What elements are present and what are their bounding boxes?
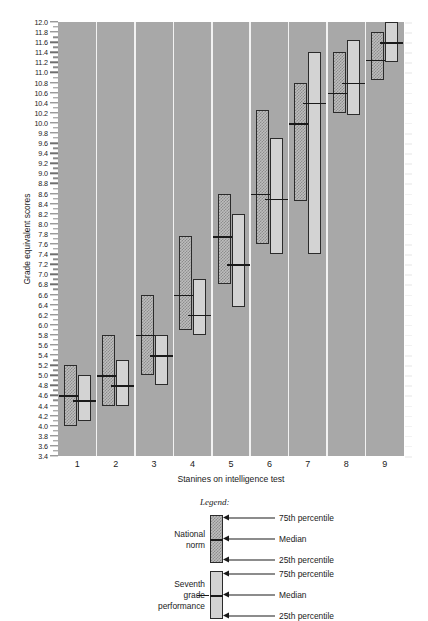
y-axis-tick-mark	[50, 314, 58, 315]
y-axis-tick-label: 4.2	[38, 412, 48, 419]
column-separator	[134, 22, 136, 456]
seventh-grade-box	[232, 214, 245, 307]
y-axis-tick-mark	[50, 375, 58, 376]
y-axis-tick-mark	[50, 435, 58, 436]
y-axis-tick-label: 3.6	[38, 442, 48, 449]
right-edge-tick	[405, 295, 412, 297]
arrow-shaft	[229, 539, 275, 540]
seventh-grade-box	[347, 40, 360, 116]
y-axis-tick-mark	[50, 62, 58, 63]
plot-area	[58, 22, 404, 456]
legend-callout-arrow	[223, 570, 275, 579]
arrow-shaft	[229, 595, 275, 596]
y-axis-tick-label: 9.6	[38, 140, 48, 147]
y-axis-tick-label: 11.4	[35, 49, 48, 56]
right-edge-tick	[405, 426, 412, 428]
x-axis-tick-label: 7	[305, 459, 310, 469]
y-axis-tick-mark	[50, 193, 58, 194]
legend-callout-arrow	[223, 514, 275, 523]
y-axis-tick-label: 5.6	[38, 341, 48, 348]
y-axis-tick-mark	[50, 445, 58, 446]
y-axis-tick-mark	[50, 253, 58, 254]
right-edge-tick	[405, 113, 412, 115]
right-edge-tick	[405, 32, 412, 34]
right-edge-tick	[405, 274, 412, 276]
x-axis-tick-label: 9	[382, 459, 387, 469]
right-edge-tick	[405, 284, 412, 286]
y-axis-tick-mark	[50, 203, 58, 204]
y-axis-tick-mark	[50, 233, 58, 234]
legend-callout-label: Median	[279, 534, 306, 544]
legend-callout-label: 75th percentile	[279, 513, 334, 523]
right-edge-tick	[405, 52, 412, 54]
x-axis-tick-label: 6	[267, 459, 272, 469]
y-axis-tick-mark	[50, 142, 58, 143]
legend-series-name: performance	[115, 601, 205, 611]
right-edge-tick	[405, 143, 412, 145]
right-edge-tick	[405, 234, 412, 236]
column-separator	[173, 22, 175, 456]
x-axis-tick-label: 2	[113, 459, 118, 469]
right-edge-tick	[405, 335, 412, 337]
national-norm-box	[294, 83, 307, 202]
seventh-grade-box	[308, 52, 321, 254]
x-axis-tick-label: 8	[344, 459, 349, 469]
legend-callout-label: Median	[279, 590, 306, 600]
right-edge-tick	[405, 456, 412, 458]
legend-callout-arrow	[223, 612, 275, 621]
y-axis-tick-mark	[50, 92, 58, 93]
y-axis-tick-mark	[50, 31, 58, 32]
y-axis-tick-mark	[50, 264, 58, 265]
y-axis-tick-label: 11.8	[35, 29, 48, 36]
right-edge-tick	[405, 183, 412, 185]
seventh-grade-median-line	[150, 355, 173, 357]
right-edge-tick	[405, 325, 412, 327]
right-edge-tick	[405, 72, 412, 74]
y-axis-tick-label: 6.0	[38, 321, 48, 328]
right-edge-tick	[405, 406, 412, 408]
y-axis-tick-mark	[50, 455, 58, 456]
y-axis-tick-mark	[50, 415, 58, 416]
right-edge-tick	[405, 244, 412, 246]
legend-callout-label: 25th percentile	[279, 611, 334, 621]
y-axis-tick-mark	[50, 274, 58, 275]
right-edge-tick	[405, 315, 412, 317]
right-edge-tick	[405, 103, 412, 105]
y-axis-tick-mark	[50, 102, 58, 103]
y-axis-tick-label: 7.2	[38, 261, 48, 268]
legend-title: Legend:	[200, 497, 230, 507]
seventh-grade-median-line	[303, 103, 326, 105]
right-edge-ticks	[405, 22, 417, 456]
y-axis-tick-mark	[50, 132, 58, 133]
legend-callout-arrow	[223, 535, 275, 544]
seventh-grade-box	[193, 279, 206, 335]
right-edge-tick	[405, 345, 412, 347]
y-axis-tick-label: 9.2	[38, 160, 48, 167]
legend-series-name: National	[115, 529, 205, 539]
legend-callout-label: 25th percentile	[279, 555, 334, 565]
national-norm-box	[256, 110, 269, 244]
y-axis-tick-label: 4.6	[38, 392, 48, 399]
y-axis-tick-label: 8.8	[38, 180, 48, 187]
seventh-grade-median-line	[342, 83, 365, 85]
right-edge-tick	[405, 153, 412, 155]
legend-callout-label: 75th percentile	[279, 569, 334, 579]
y-axis-tick-mark	[50, 284, 58, 285]
y-axis-tick-label: 7.6	[38, 241, 48, 248]
y-axis-tick-label: 11.2	[35, 59, 48, 66]
arrow-shaft	[229, 560, 275, 561]
national-norm-box	[218, 194, 231, 285]
x-axis-title: Stanines on intelligence test	[58, 474, 404, 484]
legend-callout-arrow	[223, 591, 275, 600]
y-axis-tick-label: 9.4	[38, 150, 48, 157]
y-axis-tick-mark	[50, 364, 58, 365]
legend-series-name: norm	[115, 540, 205, 550]
national-norm-box	[371, 32, 384, 80]
right-edge-tick	[405, 224, 412, 226]
column-separator	[249, 22, 251, 456]
seventh-grade-median-line	[73, 400, 96, 402]
y-axis-tick-label: 8.2	[38, 210, 48, 217]
y-axis-tick-mark	[50, 223, 58, 224]
legend: Legend: Nationalnorm75th percentileMedia…	[135, 497, 420, 617]
y-axis-tick-label: 6.6	[38, 291, 48, 298]
